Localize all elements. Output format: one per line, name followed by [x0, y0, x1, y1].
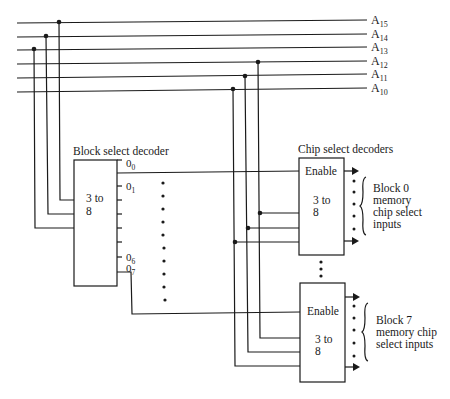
chip-decoder-block0: Enable 3 to 8 Block 0 memory chip select…: [299, 158, 423, 255]
wire-a15-to-decoder: [59, 22, 74, 200]
output-label-o1: 01: [126, 180, 136, 195]
chip-decoders-title: Chip select decoders: [298, 143, 394, 156]
address-line-a10: [17, 88, 367, 92]
output-label-o0: 00: [126, 157, 136, 172]
type-line1: 3 to: [313, 194, 331, 206]
block-select-decoder: Block select decoder 3 to 8 00 01 06 07: [73, 145, 300, 314]
arrow-right-icon: [353, 293, 360, 301]
brace-icon: [362, 303, 368, 361]
memory-decoder-diagram: A15 A14 A13 A12 A11 A10 Block select dec…: [0, 0, 450, 399]
caption-line: inputs: [373, 218, 402, 231]
chip-decoder-block7: Enable 3 to 8 Block 7 memory chip select…: [300, 283, 437, 382]
wire-a13-to-decoder: [34, 49, 74, 228]
address-line-a14: [17, 34, 367, 37]
label-a10: A10: [371, 81, 388, 97]
address-bus: [17, 20, 367, 92]
block-decoder-type-line2: 8: [86, 205, 92, 217]
wire-a11: [245, 76, 300, 352]
chip-decoder-inputs: [231, 60, 300, 366]
wire-o0-to-enable-block0: [117, 171, 300, 173]
type-line2: 8: [313, 206, 319, 218]
type-line2: 8: [315, 345, 321, 357]
wire-a12: [258, 62, 300, 338]
address-line-a11: [17, 74, 367, 78]
brace-icon: [360, 177, 366, 235]
block-decoder-inputs: [32, 20, 74, 228]
wire-o7-to-enable-block7: [117, 272, 300, 314]
arrow-right-icon: [353, 363, 360, 371]
caption-line: select inputs: [376, 338, 434, 351]
enable-label: Enable: [307, 305, 339, 317]
arrow-right-icon: [352, 167, 359, 175]
address-labels: A15 A14 A13 A12 A11 A10: [371, 13, 388, 97]
block-decoder-title: Block select decoder: [73, 145, 169, 157]
ellipsis-dots: [161, 181, 166, 301]
enable-label: Enable: [305, 165, 337, 177]
address-line-a12: [17, 61, 367, 64]
block-decoder-box: [74, 160, 117, 286]
caption-line: Block 7: [376, 314, 412, 326]
block-decoder-type-line1: 3 to: [86, 192, 104, 204]
address-line-a15: [17, 20, 367, 23]
type-line1: 3 to: [315, 333, 333, 345]
chip-select-decoders: Chip select decoders Enable 3 to 8 Block…: [298, 143, 437, 382]
arrow-right-icon: [352, 237, 359, 245]
caption-line: Block 0: [373, 182, 409, 194]
address-line-a13: [17, 47, 367, 50]
